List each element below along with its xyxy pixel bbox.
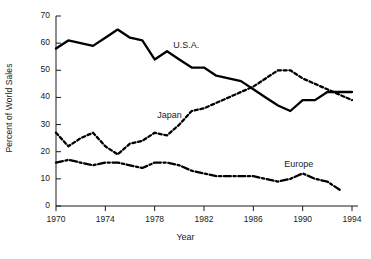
tick-marks xyxy=(56,16,352,211)
series-line-japan xyxy=(56,70,352,154)
series-label-europe: Europe xyxy=(284,159,313,169)
x-axis-title: Year xyxy=(0,232,371,242)
series-label-usa: U.S.A. xyxy=(173,40,199,50)
plot-area xyxy=(0,0,371,259)
series-label-japan: Japan xyxy=(157,110,182,120)
series-line-usa xyxy=(56,30,352,111)
line-chart: Percent of World Sales 010203040506070 1… xyxy=(0,0,371,259)
